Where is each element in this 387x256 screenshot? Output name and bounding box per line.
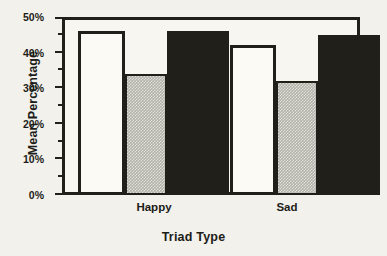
bar-sad-white — [230, 45, 276, 195]
bar-sad-black — [318, 35, 380, 195]
y-tick-label-10: 10% — [23, 153, 44, 165]
y-tick-label-50: 50% — [23, 11, 44, 23]
bar-happy-white — [78, 31, 125, 195]
y-tick-major-20 — [55, 122, 62, 124]
y-axis-ticks — [55, 17, 62, 195]
y-tick-major-40 — [55, 51, 62, 53]
bar-sad-gray — [276, 81, 318, 195]
y-tick-label-0: 0% — [29, 189, 44, 201]
bar-happy-gray — [125, 74, 167, 195]
y-tick-label-20: 20% — [23, 118, 44, 130]
y-tick-major-10 — [55, 157, 62, 159]
plot-area — [62, 17, 360, 195]
bar-happy-black — [167, 31, 229, 195]
x-axis-category-labels: Happy Sad — [62, 201, 360, 219]
y-tick-major-50 — [55, 17, 62, 19]
y-tick-major-0 — [55, 193, 62, 195]
x-category-label-sad: Sad — [276, 201, 297, 213]
y-tick-label-30: 30% — [23, 82, 44, 94]
x-category-label-happy: Happy — [136, 201, 171, 213]
y-tick-major-30 — [55, 86, 62, 88]
y-axis-tick-labels: 0% 10% 20% 30% 40% 50% — [0, 17, 55, 195]
bar-chart: Mean Percentage 0% 10% 20% 30% 40% 50% H… — [0, 0, 387, 256]
y-tick-label-40: 40% — [23, 47, 44, 59]
x-axis-title: Triad Type — [0, 230, 387, 244]
